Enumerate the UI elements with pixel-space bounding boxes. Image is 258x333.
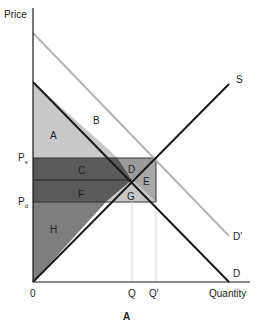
price-axis-label: Price [4, 9, 27, 20]
q-prime-label: Q′ [149, 288, 159, 299]
supply-label: S [236, 74, 243, 85]
q-label: Q [128, 288, 136, 299]
region-f-label: F [78, 189, 84, 200]
region-h-label: H [50, 224, 57, 235]
region-c-label: C [78, 165, 85, 176]
region-e-label: E [143, 176, 150, 187]
quantity-axis-label: Quantity [209, 288, 246, 299]
origin-label: 0 [30, 288, 36, 299]
region-a [33, 82, 118, 158]
region-d-label: D [128, 164, 135, 175]
figure-caption: A [123, 311, 130, 322]
region-g-label: G [127, 191, 135, 202]
demand-label: D [233, 268, 240, 279]
pd-label: Pd [18, 196, 28, 209]
region-a-label: A [50, 130, 57, 141]
economics-diagram: Price Quantity 0 Q Q′ Ps Pd S D′ D A B C… [0, 0, 258, 333]
region-b-label: B [93, 115, 100, 126]
demand-shifted-label: D′ [233, 231, 242, 242]
ps-label: Ps [18, 152, 28, 165]
